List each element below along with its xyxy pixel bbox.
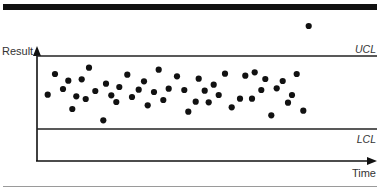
data-point — [274, 85, 280, 91]
data-point — [160, 97, 166, 103]
x-axis-arrow-icon — [367, 157, 377, 165]
data-point — [196, 76, 202, 82]
data-point — [92, 88, 98, 94]
data-point — [211, 82, 217, 88]
data-point — [83, 96, 89, 102]
data-point — [193, 99, 199, 105]
data-point — [252, 69, 258, 75]
data-point — [202, 88, 208, 94]
data-point — [216, 92, 222, 98]
data-point — [237, 96, 243, 102]
data-point — [65, 78, 71, 84]
data-point — [166, 86, 172, 92]
data-point — [222, 71, 228, 77]
data-point — [136, 87, 142, 93]
data-point — [306, 23, 312, 29]
data-point — [108, 92, 114, 98]
data-point — [262, 76, 268, 82]
data-point — [100, 117, 106, 123]
data-point — [280, 78, 286, 84]
data-point — [185, 109, 191, 115]
data-point — [116, 84, 122, 90]
data-point — [174, 73, 180, 79]
data-point — [141, 78, 147, 84]
data-point — [45, 92, 51, 98]
data-point — [289, 92, 295, 98]
data-point — [79, 76, 85, 82]
data-point — [86, 65, 92, 71]
data-point — [73, 93, 79, 99]
data-point — [181, 87, 187, 93]
data-point — [206, 99, 212, 105]
y-axis-arrow-icon — [33, 46, 41, 56]
data-point — [60, 86, 66, 92]
ucl-label: UCL — [355, 43, 376, 55]
data-point — [69, 106, 75, 112]
data-point — [242, 73, 248, 79]
control-chart: Result Time UCL LCL — [0, 0, 386, 194]
data-point — [268, 112, 274, 118]
data-point — [52, 71, 58, 77]
data-point — [113, 99, 119, 105]
data-point — [124, 72, 130, 78]
data-point — [294, 71, 300, 77]
data-point — [258, 87, 264, 93]
data-point — [145, 102, 151, 108]
y-axis-label: Result — [2, 45, 33, 57]
x-axis-label: Time — [352, 167, 376, 179]
data-point — [156, 67, 162, 73]
data-point — [129, 94, 135, 100]
data-point — [285, 100, 291, 106]
bottom-divider — [3, 186, 377, 187]
data-points — [45, 23, 312, 124]
data-point — [151, 89, 157, 95]
data-point — [249, 96, 255, 102]
data-point — [300, 108, 306, 114]
lcl-label: LCL — [357, 133, 376, 145]
data-point — [103, 81, 109, 87]
data-point — [229, 104, 235, 110]
